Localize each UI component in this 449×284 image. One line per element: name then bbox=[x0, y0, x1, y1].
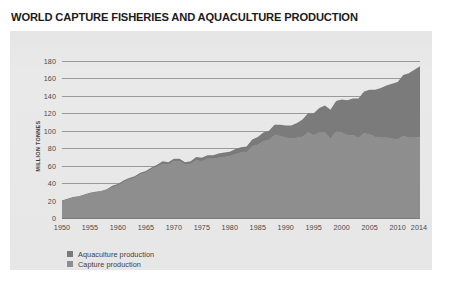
plot-area: 020406080100120140160180 195019551960196… bbox=[62, 61, 420, 218]
x-axis-tick-label: 1960 bbox=[110, 223, 126, 232]
legend-label: Aquaculture production bbox=[78, 250, 154, 259]
stacked-area-series bbox=[62, 61, 420, 218]
legend-label: Capture production bbox=[78, 260, 141, 269]
x-axis-tick-label: 2014 bbox=[411, 223, 427, 232]
x-axis-tick-label: 2000 bbox=[333, 223, 349, 232]
x-axis-line bbox=[62, 218, 420, 219]
legend-item: Capture production bbox=[67, 259, 154, 269]
x-axis-tick-label: 1950 bbox=[54, 223, 70, 232]
y-axis-title: MILLION TONNES bbox=[35, 111, 41, 181]
chart-title: WORLD CAPTURE FISHERIES AND AQUACULTURE … bbox=[11, 11, 358, 23]
x-axis-tick-label: 2010 bbox=[389, 223, 405, 232]
y-axis-tick-label: 0 bbox=[52, 214, 56, 223]
y-axis-tick-label: 60 bbox=[48, 161, 56, 170]
x-axis-tick-label: 1980 bbox=[222, 223, 238, 232]
x-axis-tick-label: 1965 bbox=[138, 223, 154, 232]
y-axis-tick-label: 120 bbox=[44, 109, 56, 118]
legend-item: Aquaculture production bbox=[67, 249, 154, 259]
x-axis-tick-label: 1955 bbox=[82, 223, 98, 232]
x-axis-tick-label: 1990 bbox=[278, 223, 294, 232]
x-axis-tick-label: 1975 bbox=[194, 223, 210, 232]
y-axis-tick-label: 140 bbox=[44, 91, 56, 100]
figure: WORLD CAPTURE FISHERIES AND AQUACULTURE … bbox=[0, 0, 449, 284]
y-axis-tick-label: 180 bbox=[44, 57, 56, 66]
x-axis-tick-label: 1985 bbox=[250, 223, 266, 232]
y-axis-tick-label: 160 bbox=[44, 74, 56, 83]
chart-panel: MILLION TONNES 020406080100120140160180 … bbox=[10, 31, 432, 270]
x-axis-tick-label: 2005 bbox=[361, 223, 377, 232]
chart-legend: Aquaculture productionCapture production bbox=[67, 249, 154, 269]
capture-production-area bbox=[62, 132, 420, 218]
x-axis-tick-label: 1995 bbox=[306, 223, 322, 232]
y-axis-tick-label: 20 bbox=[48, 196, 56, 205]
legend-swatch bbox=[67, 251, 73, 257]
x-axis-tick-label: 1970 bbox=[166, 223, 182, 232]
y-axis-tick-label: 40 bbox=[48, 179, 56, 188]
y-axis-tick-label: 100 bbox=[44, 126, 56, 135]
y-axis-tick-label: 80 bbox=[48, 144, 56, 153]
legend-swatch bbox=[67, 261, 73, 267]
